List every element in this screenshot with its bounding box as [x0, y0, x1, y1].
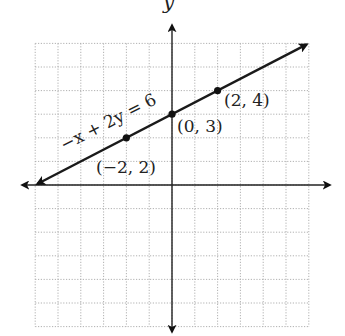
equation-label: −x + 2y = 6 — [57, 89, 160, 155]
point-marker — [123, 134, 130, 141]
coordinate-plane: y −x + 2y = 6 (−2, 2) (0, 3) (2, 4) — [0, 0, 345, 336]
y-axis-label: y — [162, 0, 175, 14]
point-label-2-4: (2, 4) — [224, 90, 270, 110]
point-marker — [168, 111, 175, 118]
point-label-0-3: (0, 3) — [177, 116, 223, 136]
axes — [22, 25, 330, 332]
point-label-neg2-2: (−2, 2) — [96, 157, 156, 177]
point-marker — [214, 87, 221, 94]
